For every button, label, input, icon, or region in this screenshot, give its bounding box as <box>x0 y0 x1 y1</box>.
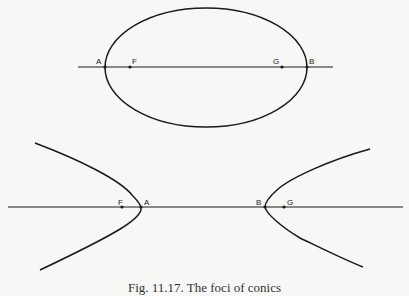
figure-caption: Fig. 11.17. The foci of conics <box>0 280 409 296</box>
label-b: B <box>256 198 261 207</box>
label-a: A <box>96 57 102 66</box>
label-g: G <box>273 57 279 66</box>
label-f: F <box>132 57 137 66</box>
focus-g <box>282 205 285 208</box>
point-a <box>103 65 106 68</box>
focus-g <box>280 65 283 68</box>
point-b <box>263 205 266 208</box>
label-g: G <box>287 198 293 207</box>
ellipse-figure: A F G B <box>78 8 333 127</box>
label-f: F <box>118 198 123 207</box>
point-a <box>139 205 142 208</box>
label-b: B <box>309 57 314 66</box>
hyperbola-figure: F A B G <box>8 143 403 270</box>
hyperbola-right-branch <box>265 149 370 267</box>
label-a: A <box>144 198 150 207</box>
